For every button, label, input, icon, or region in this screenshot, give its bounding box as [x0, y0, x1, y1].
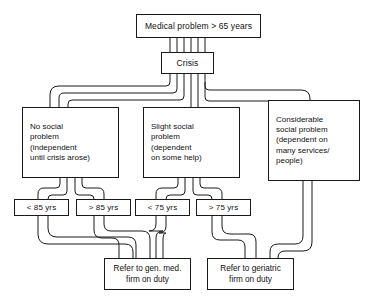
wire-no-social-to-age-gates [38, 178, 104, 199]
line: social problem [276, 125, 328, 134]
line: many services/ [276, 146, 329, 155]
node-medical-problem[interactable]: Medical problem > 65 years [136, 14, 261, 38]
line: (dependent on [276, 135, 328, 144]
node-slight-social-problem[interactable]: Slight social problem (dependent on some… [143, 107, 240, 178]
node-refer-geriatric-label: Refer to geriatric firm on duty [208, 263, 293, 285]
line: No social [30, 122, 63, 131]
node-refer-general-medical-label: Refer to gen. med. firm on duty [105, 263, 190, 285]
node-considerable-social-problem-label: Considerable social problem (dependent o… [269, 115, 359, 166]
node-age-gate-lt75-label: < 75 yrs [136, 203, 189, 212]
node-crisis[interactable]: Crisis [161, 52, 214, 74]
line: problem [30, 132, 59, 141]
node-crisis-label: Crisis [162, 58, 213, 68]
flowchart-canvas: Medical problem > 65 years Crisis No soc… [0, 0, 377, 304]
node-refer-general-medical[interactable]: Refer to gen. med. firm on duty [104, 258, 191, 290]
wire-considerable-to-geriatric [270, 170, 312, 258]
line: until crisis arose) [30, 153, 90, 162]
node-refer-geriatric[interactable]: Refer to geriatric firm on duty [207, 258, 294, 290]
wire-slight-social-to-age-gates [156, 178, 222, 199]
line: Considerable [276, 115, 323, 124]
node-age-gate-lt85[interactable]: < 85 yrs [14, 199, 69, 216]
node-considerable-social-problem[interactable]: Considerable social problem (dependent o… [268, 100, 360, 181]
wire-lt75-to-general-medical [149, 216, 166, 258]
wire-medical-to-crisis [170, 38, 205, 52]
line: Refer to gen. med. [114, 264, 182, 273]
line: people) [276, 156, 303, 165]
wire-lt85-to-general-medical [38, 216, 136, 258]
line: (independent [30, 143, 77, 152]
node-slight-social-problem-label: Slight social problem (dependent on some… [144, 122, 239, 163]
node-medical-problem-label: Medical problem > 65 years [137, 21, 260, 31]
node-age-gate-gt85[interactable]: > 85 yrs [76, 199, 131, 216]
node-no-social-problem[interactable]: No social problem (independent until cri… [22, 107, 119, 178]
node-age-gate-gt75-label: > 75 yrs [197, 203, 250, 212]
wire-crisis-to-no-social [50, 74, 177, 107]
line: firm on duty [126, 275, 169, 284]
line: (dependent [151, 143, 191, 152]
node-age-gate-lt75[interactable]: < 75 yrs [135, 199, 190, 216]
node-age-gate-lt85-label: < 85 yrs [15, 203, 68, 212]
line: firm on duty [229, 275, 272, 284]
line: on some help) [151, 153, 202, 162]
node-no-social-problem-label: No social problem (independent until cri… [23, 122, 118, 163]
node-age-gate-gt85-label: > 85 yrs [77, 203, 130, 212]
line: Refer to geriatric [220, 264, 281, 273]
line: problem [151, 132, 180, 141]
wire-crisis-to-slight-social [68, 74, 198, 107]
line: Slight social [151, 122, 194, 131]
wire-gt75-to-geriatric [212, 216, 256, 258]
node-age-gate-gt75[interactable]: > 75 yrs [196, 199, 251, 216]
